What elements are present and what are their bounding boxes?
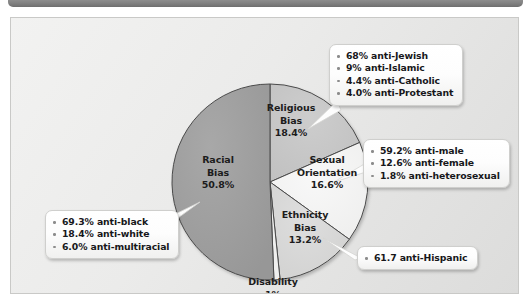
callout-item: 6.0% anti-multiracial (53, 241, 169, 253)
callout-religious-bias-list: 68% anti-Jewish 9% anti-Islamic 4.4% ant… (337, 50, 453, 100)
callout-racial-bias-list: 69.3% anti-black 18.4% anti-white 6.0% a… (53, 216, 169, 253)
pie-label-sexual-orientation-value: 16.6% (289, 179, 365, 192)
pie-label-racial-bias: Racial Bias 50.8% (187, 154, 249, 192)
callout-item: 61.7 anti-Hispanic (365, 252, 468, 264)
pie-label-racial-bias-line2: Bias (187, 167, 249, 180)
callout-sexual-orientation-list: 59.2% anti-male 12.6% anti-female 1.8% a… (371, 145, 500, 182)
pie-label-ethnicity-bias-value: 13.2% (273, 234, 337, 247)
callout-sexual-orientation: 59.2% anti-male 12.6% anti-female 1.8% a… (363, 139, 510, 188)
callout-religious-bias: 68% anti-Jewish 9% anti-Islamic 4.4% ant… (329, 44, 463, 106)
callout-item: 4.4% anti-Catholic (337, 75, 453, 87)
pie-label-racial-bias-value: 50.8% (187, 179, 249, 192)
callout-racial-bias: 69.3% anti-black 18.4% anti-white 6.0% a… (45, 210, 179, 259)
callout-item: 59.2% anti-male (371, 145, 500, 157)
pie-label-ethnicity-bias: Ethnicity Bias 13.2% (273, 209, 337, 247)
pie-label-disability-value: 1% (223, 289, 323, 294)
callout-item: 69.3% anti-black (53, 216, 169, 228)
pie-label-sexual-orientation-line1: Sexual (289, 154, 365, 167)
pie-label-sexual-orientation-line2: Orientation (289, 167, 365, 180)
callout-item: 4.0% anti-Protestant (337, 87, 453, 99)
pie-label-ethnicity-bias-line1: Ethnicity (273, 209, 337, 222)
pie-label-religious-bias-value: 18.4% (259, 127, 323, 140)
header-bar (8, 0, 523, 7)
pie-label-religious-bias: Religious Bias 18.4% (259, 102, 323, 140)
callout-item: 9% anti-Islamic (337, 62, 453, 74)
pie-label-religious-bias-line1: Religious (259, 102, 323, 115)
figure-container: Racial Bias 50.8% Religious Bias 18.4% S… (0, 0, 531, 302)
callout-ethnicity-bias-list: 61.7 anti-Hispanic (365, 252, 468, 264)
callout-item: 68% anti-Jewish (337, 50, 453, 62)
callout-ethnicity-bias: 61.7 anti-Hispanic (357, 246, 478, 270)
pie-label-racial-bias-line1: Racial (187, 154, 249, 167)
pie-label-sexual-orientation: Sexual Orientation 16.6% (289, 154, 365, 192)
pie-label-religious-bias-line2: Bias (259, 115, 323, 128)
callout-item: 18.4% anti-white (53, 228, 169, 240)
callout-item: 1.8% anti-heterosexual (371, 170, 500, 182)
chart-panel-inner: Racial Bias 50.8% Religious Bias 18.4% S… (11, 18, 518, 293)
callout-item: 12.6% anti-female (371, 157, 500, 169)
pie-label-disability: Disability 1% (223, 276, 323, 293)
chart-panel: Racial Bias 50.8% Religious Bias 18.4% S… (10, 17, 519, 294)
pie-label-disability-line1: Disability (223, 276, 323, 289)
pie-label-ethnicity-bias-line2: Bias (273, 222, 337, 235)
